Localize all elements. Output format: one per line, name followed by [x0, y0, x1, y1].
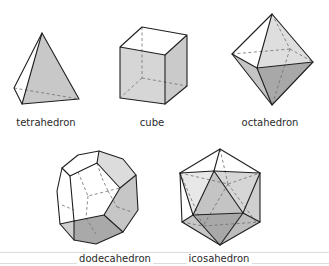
cube-drawing — [120, 27, 187, 104]
tetrahedron-drawing — [14, 33, 79, 104]
label-cube: cube — [140, 117, 164, 128]
label-octahedron: octahedron — [242, 117, 299, 128]
bottom-rule-bottom — [0, 263, 329, 264]
icosahedron-drawing — [180, 149, 260, 245]
bottom-rule-top — [0, 252, 329, 253]
label-tetrahedron: tetrahedron — [16, 117, 75, 128]
dodecahedron-drawing — [57, 151, 138, 244]
label-icosahedron: icosahedron — [187, 253, 252, 264]
platonic-solids-figure — [0, 0, 329, 266]
label-dodecahedron: dodecahedron — [77, 253, 153, 264]
octahedron-drawing — [232, 14, 313, 105]
